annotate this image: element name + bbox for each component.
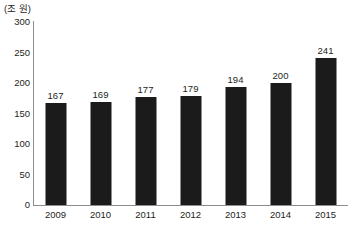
x-axis-tick-label: 2011 (123, 209, 168, 221)
x-axis-tick-label: 2015 (303, 209, 348, 221)
y-axis-tick-label: 100 (2, 139, 30, 149)
x-axis-tick-label: 2009 (33, 209, 78, 221)
x-axis-tick-label: 2010 (78, 209, 123, 221)
y-axis-tick-label: 0 (2, 200, 30, 210)
y-axis-tick-label: 300 (2, 17, 30, 27)
y-axis-tick-label: 50 (2, 170, 30, 180)
y-axis-tick-label: 200 (2, 78, 30, 88)
y-axis-tick-label: 250 (2, 48, 30, 58)
x-axis-tick-labels: 2009201020112012201320142015 (33, 0, 348, 242)
x-axis-tick-label: 2014 (258, 209, 303, 221)
bar-chart: (조 원) 300250200150100500 167169177179194… (0, 0, 354, 242)
x-axis-tick-label: 2013 (213, 209, 258, 221)
y-axis-tick-labels: 300250200150100500 (0, 0, 30, 242)
y-axis-tick-label: 150 (2, 109, 30, 119)
x-axis-tick-label: 2012 (168, 209, 213, 221)
